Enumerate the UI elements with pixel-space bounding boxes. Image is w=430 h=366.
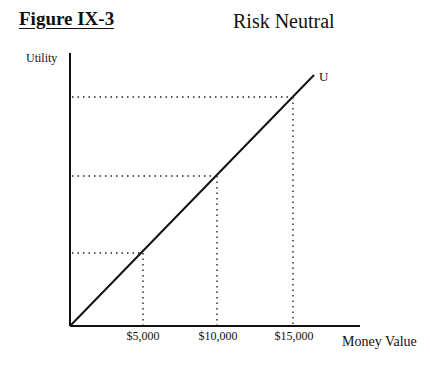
x-tick-5000: $5,000 bbox=[127, 329, 160, 344]
x-tick-10000: $10,000 bbox=[199, 329, 238, 344]
x-tick-15000: $15,000 bbox=[275, 329, 314, 344]
curve-label: U bbox=[319, 69, 328, 85]
utility-line bbox=[70, 75, 314, 326]
x-axis-label: Money Value bbox=[342, 334, 417, 350]
chart-plot bbox=[0, 0, 430, 366]
